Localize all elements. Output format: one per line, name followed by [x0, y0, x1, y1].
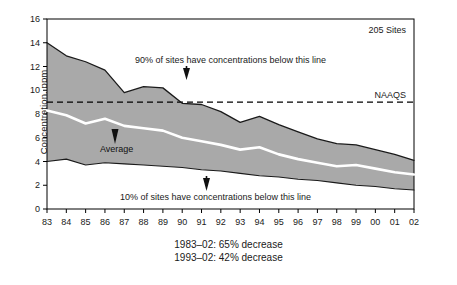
- x-tick-label: 96: [293, 217, 303, 227]
- x-tick-label: 00: [370, 217, 380, 227]
- x-tick-label: 83: [42, 217, 52, 227]
- average-note: Average: [100, 144, 133, 154]
- sites-count-label: 205 Sites: [368, 25, 406, 35]
- x-tick-label: 84: [61, 217, 71, 227]
- x-tick-label: 88: [139, 217, 149, 227]
- y-tick-label: 0: [35, 204, 40, 214]
- y-tick-label: 6: [35, 133, 40, 143]
- y-tick-label: 16: [30, 14, 40, 24]
- x-tick-label: 87: [119, 217, 129, 227]
- y-tick-label: 2: [35, 180, 40, 190]
- x-tick-label: 90: [177, 217, 187, 227]
- x-tick-label: 95: [274, 217, 284, 227]
- chart-figure: Concentration, ppm 024681012141683848586…: [0, 0, 457, 285]
- naaqs-label: NAAQS: [374, 90, 406, 100]
- x-tick-label: 02: [409, 217, 419, 227]
- y-tick-label: 12: [30, 62, 40, 72]
- caption-line-1: 1983–02: 65% decrease: [0, 238, 457, 251]
- x-tick-label: 01: [390, 217, 400, 227]
- x-tick-label: 89: [158, 217, 168, 227]
- y-tick-label: 14: [30, 38, 40, 48]
- x-tick-label: 86: [100, 217, 110, 227]
- x-tick-label: 92: [216, 217, 226, 227]
- x-tick-label: 98: [332, 217, 342, 227]
- x-tick-label: 97: [312, 217, 322, 227]
- caption-block: 1983–02: 65% decrease 1993–02: 42% decre…: [0, 238, 457, 264]
- x-tick-label: 85: [81, 217, 91, 227]
- x-tick-label: 99: [351, 217, 361, 227]
- caption-line-2: 1993–02: 42% decrease: [0, 251, 457, 264]
- y-tick-label: 8: [35, 109, 40, 119]
- upper-band-note: 90% of sites have concentrations below t…: [135, 55, 326, 65]
- x-tick-label: 93: [235, 217, 245, 227]
- x-tick-label: 94: [254, 217, 264, 227]
- y-tick-label: 10: [30, 85, 40, 95]
- lower-band-note: 10% of sites have concentrations below t…: [120, 192, 311, 202]
- y-tick-label: 4: [35, 157, 40, 167]
- x-tick-label: 91: [197, 217, 207, 227]
